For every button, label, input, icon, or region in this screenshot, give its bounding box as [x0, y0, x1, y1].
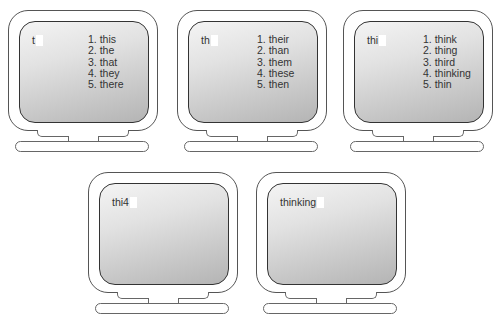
suggestion-item[interactable]: 2. than	[257, 45, 294, 56]
typed-value: thi4	[112, 196, 129, 208]
monitor-frame: thi4	[88, 172, 238, 293]
suggestion-item[interactable]: 5. there	[88, 79, 124, 90]
monitor-2: th 1. their 2. than 3. them 4. these 5. …	[177, 10, 327, 155]
typed-value: t	[32, 34, 35, 46]
suggestion-list: 1. this 2. the 3. that 4. they 5. there	[88, 34, 124, 90]
suggestion-list: 1. their 2. than 3. them 4. these 5. the…	[257, 34, 294, 90]
monitor-base	[350, 141, 484, 152]
cursor-icon	[211, 35, 218, 46]
monitor-frame: th 1. their 2. than 3. them 4. these 5. …	[177, 10, 327, 131]
cursor-icon	[379, 35, 386, 46]
monitor-base	[15, 141, 149, 152]
typed-text: th	[201, 34, 218, 46]
monitor-base	[95, 303, 229, 314]
suggestion-item[interactable]: 5. thin	[423, 79, 471, 90]
suggestion-item[interactable]: 2. the	[88, 45, 124, 56]
typed-text: t	[32, 34, 43, 46]
monitor-base	[184, 141, 318, 152]
monitor-base	[263, 303, 397, 314]
typed-text: thinking	[280, 196, 324, 208]
monitor-5: thinking	[256, 172, 406, 317]
suggestion-list: 1. think 2. thing 3. third 4. thinking 5…	[423, 34, 471, 90]
monitor-frame: thinking	[256, 172, 406, 293]
typed-text: thi4	[112, 196, 137, 208]
typed-value: thinking	[280, 196, 316, 208]
monitor-screen: thinking	[267, 183, 397, 285]
monitor-frame: thi 1. think 2. thing 3. third 4. thinki…	[343, 10, 493, 131]
monitor-screen: th 1. their 2. than 3. them 4. these 5. …	[188, 21, 318, 123]
typed-text: thi	[367, 34, 386, 46]
suggestion-item[interactable]: 5. then	[257, 79, 294, 90]
typed-value: thi	[367, 34, 378, 46]
suggestion-item[interactable]: 2. thing	[423, 45, 471, 56]
cursor-icon	[317, 197, 324, 208]
monitor-screen: thi4	[99, 183, 229, 285]
monitor-3: thi 1. think 2. thing 3. third 4. thinki…	[343, 10, 493, 155]
monitor-screen: thi 1. think 2. thing 3. third 4. thinki…	[354, 21, 484, 123]
cursor-icon	[36, 35, 43, 46]
cursor-icon	[130, 197, 137, 208]
monitor-1: t 1. this 2. the 3. that 4. they 5. ther…	[8, 10, 158, 155]
typed-value: th	[201, 34, 210, 46]
monitor-screen: t 1. this 2. the 3. that 4. they 5. ther…	[19, 21, 149, 123]
monitor-4: thi4	[88, 172, 238, 317]
monitor-frame: t 1. this 2. the 3. that 4. they 5. ther…	[8, 10, 158, 131]
